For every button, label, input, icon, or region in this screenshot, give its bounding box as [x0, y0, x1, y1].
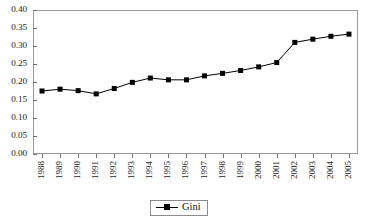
- x-tick-mark: [241, 154, 242, 158]
- gini-data-point: [76, 88, 81, 93]
- y-tick-label: 0.10: [11, 113, 27, 122]
- gini-data-point: [166, 77, 171, 82]
- x-tick-label: 1990: [73, 161, 82, 179]
- x-tick-label: 1997: [200, 161, 209, 179]
- x-tick-mark: [42, 154, 43, 158]
- gini-marker-group: [40, 32, 352, 97]
- x-tick-mark: [150, 154, 151, 158]
- legend-square-marker-icon: [164, 204, 170, 210]
- legend-label-gini: Gini: [182, 202, 201, 213]
- legend-swatch-gini: [156, 203, 178, 212]
- gini-data-point: [148, 76, 153, 81]
- gini-data-point: [220, 71, 225, 76]
- y-tick-label: 0.15: [11, 95, 27, 104]
- y-tick-label: 0.20: [11, 77, 27, 86]
- x-tick-label: 1993: [127, 161, 136, 179]
- x-tick-mark: [259, 154, 260, 158]
- gini-data-point: [346, 32, 351, 37]
- y-tick-mark: [33, 154, 37, 155]
- x-tick-mark: [349, 154, 350, 158]
- gini-data-point: [256, 64, 261, 69]
- y-tick-label: 0.40: [11, 5, 27, 14]
- x-tick-label: 2001: [272, 161, 281, 179]
- gini-data-point: [94, 91, 99, 96]
- x-tick-mark: [96, 154, 97, 158]
- gini-line-chart: 0.000.050.100.150.200.250.300.350.40 198…: [0, 0, 368, 222]
- x-tick-label: 2002: [290, 161, 299, 179]
- x-tick-mark: [168, 154, 169, 158]
- gini-data-point: [274, 60, 279, 65]
- y-axis: 0.000.050.100.150.200.250.300.350.40: [0, 10, 31, 154]
- x-tick-label: 2005: [344, 161, 353, 179]
- x-tick-mark: [331, 154, 332, 158]
- x-tick-mark: [277, 154, 278, 158]
- x-tick-label: 2003: [308, 161, 317, 179]
- x-tick-mark: [78, 154, 79, 158]
- x-tick-label: 2000: [254, 161, 263, 179]
- x-tick-label: 1988: [37, 161, 46, 179]
- x-tick-label: 1989: [55, 161, 64, 179]
- x-tick-mark: [60, 154, 61, 158]
- x-tick-label: 2004: [326, 161, 335, 179]
- x-tick-label: 1998: [218, 161, 227, 179]
- gini-data-point: [112, 86, 117, 91]
- x-tick-mark: [114, 154, 115, 158]
- gini-data-point: [184, 77, 189, 82]
- x-tick-mark: [205, 154, 206, 158]
- x-tick-label: 1995: [163, 161, 172, 179]
- x-tick-label: 1996: [181, 161, 190, 179]
- x-tick-mark: [223, 154, 224, 158]
- y-tick-label: 0.00: [11, 149, 27, 158]
- gini-data-point: [202, 73, 207, 78]
- x-tick-mark: [132, 154, 133, 158]
- gini-line-path: [42, 34, 349, 94]
- x-tick-label: 1992: [109, 161, 118, 179]
- x-tick-label: 1999: [236, 161, 245, 179]
- x-tick-mark: [313, 154, 314, 158]
- series-gini: [33, 10, 358, 154]
- y-tick-label: 0.05: [11, 131, 27, 140]
- gini-data-point: [40, 89, 45, 94]
- gini-data-point: [310, 37, 315, 42]
- gini-data-point: [292, 40, 297, 45]
- x-tick-label: 1991: [91, 161, 100, 179]
- y-tick-label: 0.25: [11, 59, 27, 68]
- gini-data-point: [58, 87, 63, 92]
- y-tick-label: 0.35: [11, 23, 27, 32]
- x-tick-mark: [295, 154, 296, 158]
- gini-data-point: [328, 34, 333, 39]
- x-tick-mark: [186, 154, 187, 158]
- gini-data-point: [238, 68, 243, 73]
- x-tick-label: 1994: [145, 161, 154, 179]
- chart-legend: Gini: [150, 200, 208, 216]
- y-tick-label: 0.30: [11, 41, 27, 50]
- gini-data-point: [130, 80, 135, 85]
